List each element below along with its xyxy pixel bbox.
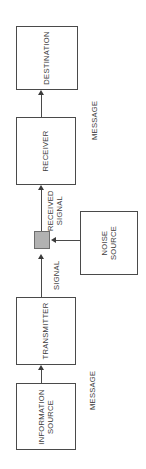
edge-label-message-top: MESSAGE xyxy=(90,101,99,140)
edge-receiver-to-destination xyxy=(41,95,42,117)
edge-label-message-bottom: MESSAGE xyxy=(88,371,97,410)
edge-noise-to-channel xyxy=(56,240,80,241)
block-receiver-label: RECEIVER xyxy=(41,131,50,172)
block-noise-source: NOISE SOURCE xyxy=(80,211,138,275)
block-information-source: INFORMATION SOURCE xyxy=(16,383,76,450)
block-transmitter: TRANSMITTER xyxy=(16,297,76,365)
block-receiver: RECEIVER xyxy=(16,117,76,185)
edge-label-signal: SIGNAL xyxy=(52,261,61,290)
block-destination-label: DESTINATION xyxy=(42,31,51,84)
arrowhead-channel-to-receiver xyxy=(38,185,44,190)
edge-channel-to-receiver xyxy=(41,190,42,231)
arrowhead-noise-to-channel xyxy=(51,237,56,243)
block-channel xyxy=(34,231,50,249)
arrowhead-transmitter-to-channel xyxy=(38,254,44,259)
block-destination: DESTINATION xyxy=(16,26,78,90)
edge-label-received-signal: RECEIVED SIGNAL xyxy=(46,190,65,231)
block-transmitter-label: TRANSMITTER xyxy=(41,303,50,360)
edge-information-source-to-transmitter xyxy=(41,370,42,383)
block-noise-source-label: NOISE SOURCE xyxy=(100,226,119,260)
arrowhead-receiver-to-destination xyxy=(38,90,44,95)
block-information-source-label: INFORMATION SOURCE xyxy=(37,389,56,444)
communication-system-diagram: DESTINATION MESSAGE RECEIVER RECEIVED SI… xyxy=(0,0,146,469)
edge-transmitter-to-channel xyxy=(41,259,42,297)
arrowhead-information-source-to-transmitter xyxy=(38,365,44,370)
